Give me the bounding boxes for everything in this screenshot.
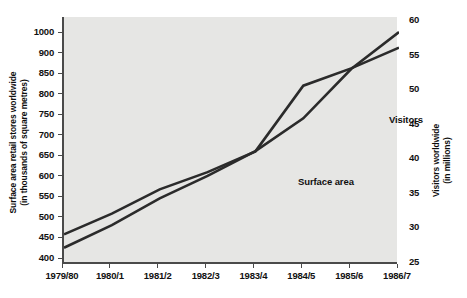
plot-area: Visitors Surface area <box>62 17 397 264</box>
x-tick-mark <box>397 264 398 268</box>
series-label-visitors: Visitors <box>389 114 423 125</box>
left-axis-tick-750: 750 <box>24 108 54 119</box>
x-tick-mark <box>157 264 158 268</box>
left-axis-tick-650: 650 <box>24 149 54 160</box>
left-axis-tick-900: 900 <box>24 47 54 58</box>
x-tick-mark <box>349 264 350 268</box>
left-axis-tick-400: 400 <box>24 252 54 263</box>
right-axis-tick-55: 55 <box>409 49 439 60</box>
left-axis-tick-450: 450 <box>24 231 54 242</box>
x-tick-mark <box>109 264 110 268</box>
left-axis-tick-800: 800 <box>24 88 54 99</box>
right-axis-tick-35: 35 <box>409 187 439 198</box>
right-axis-tick-50: 50 <box>409 83 439 94</box>
series-line-visitors <box>64 48 399 235</box>
left-axis-tick-850: 850 <box>24 67 54 78</box>
left-axis-tick-1000: 1000 <box>24 26 54 37</box>
left-axis-tick-500: 500 <box>24 211 54 222</box>
left-axis-title: Surface area retail stores worldwide (in… <box>8 23 29 263</box>
right-axis-tick-60: 60 <box>409 14 439 25</box>
left-axis-title-line1: Surface area retail stores worldwide <box>8 72 18 214</box>
x-axis-tick-1986-7: 1986/7 <box>367 270 427 281</box>
left-axis-tick-550: 550 <box>24 190 54 201</box>
right-axis-title-line2: (in millions) <box>441 61 452 261</box>
x-tick-mark <box>301 264 302 268</box>
series-label-surface-area: Surface area <box>298 176 354 187</box>
plot-svg <box>64 17 399 264</box>
right-axis-tick-40: 40 <box>409 152 439 163</box>
left-axis-tick-600: 600 <box>24 170 54 181</box>
x-tick-mark <box>253 264 254 268</box>
chart-figure: Surface area retail stores worldwide (in… <box>0 0 467 298</box>
x-tick-mark <box>62 264 63 268</box>
right-axis-tick-30: 30 <box>409 221 439 232</box>
right-axis-tick-25: 25 <box>409 256 439 267</box>
left-axis-tick-700: 700 <box>24 129 54 140</box>
series-line-surface-area <box>64 32 399 248</box>
x-tick-mark <box>205 264 206 268</box>
left-axis-title-line2: (in thousands of square metres) <box>18 23 29 263</box>
